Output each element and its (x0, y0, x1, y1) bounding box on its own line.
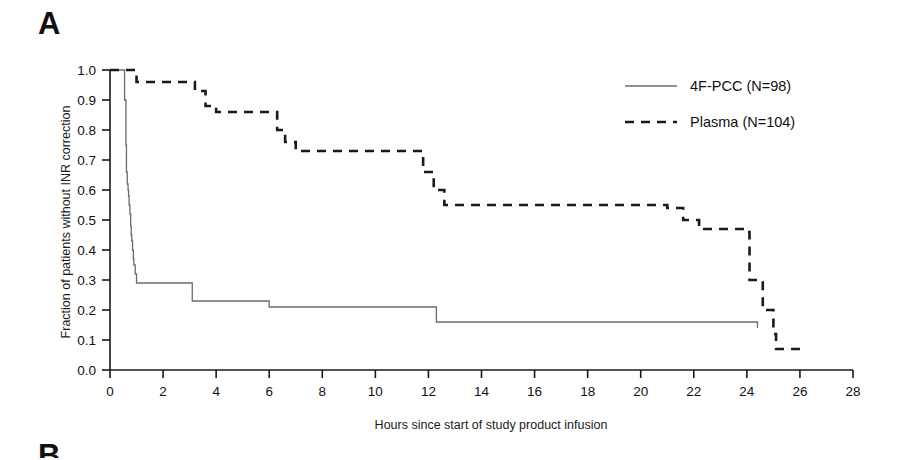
svg-text:6: 6 (265, 384, 273, 399)
svg-text:0.8: 0.8 (77, 123, 96, 138)
svg-text:28: 28 (845, 384, 860, 399)
svg-text:0.1: 0.1 (77, 333, 96, 348)
svg-text:0.5: 0.5 (77, 213, 96, 228)
svg-text:22: 22 (686, 384, 701, 399)
x-axis-label: Hours since start of study product infus… (295, 418, 608, 432)
svg-text:2: 2 (159, 384, 167, 399)
figure-panel-a: A 02468101214161820222426280.00.10.20.30… (0, 0, 902, 460)
legend-label: Plasma (N=104) (690, 114, 795, 130)
legend-item: Plasma (N=104) (625, 104, 795, 140)
svg-text:20: 20 (633, 384, 648, 399)
svg-text:24: 24 (739, 384, 755, 399)
svg-text:10: 10 (368, 384, 383, 399)
svg-text:0.3: 0.3 (77, 273, 96, 288)
svg-text:0.0: 0.0 (77, 363, 96, 378)
legend-dashed-line-icon (625, 115, 677, 129)
svg-text:16: 16 (527, 384, 542, 399)
svg-text:12: 12 (421, 384, 436, 399)
svg-text:18: 18 (580, 384, 595, 399)
legend-label: 4F-PCC (N=98) (690, 78, 791, 94)
svg-text:26: 26 (792, 384, 807, 399)
legend-solid-line-icon (625, 79, 677, 93)
svg-text:14: 14 (474, 384, 490, 399)
chart-legend: 4F-PCC (N=98)Plasma (N=104) (625, 68, 795, 140)
legend-item: 4F-PCC (N=98) (625, 68, 795, 104)
svg-text:0.7: 0.7 (77, 153, 96, 168)
svg-text:4: 4 (212, 384, 220, 399)
svg-text:0.4: 0.4 (77, 243, 96, 258)
svg-text:8: 8 (319, 384, 327, 399)
svg-text:0.9: 0.9 (77, 93, 96, 108)
svg-text:1.0: 1.0 (77, 63, 96, 78)
next-panel-label: B (38, 440, 60, 458)
x-axis-label-container: Hours since start of study product infus… (0, 418, 902, 432)
svg-text:0.2: 0.2 (77, 303, 96, 318)
svg-text:0.6: 0.6 (77, 183, 96, 198)
svg-text:0: 0 (106, 384, 114, 399)
